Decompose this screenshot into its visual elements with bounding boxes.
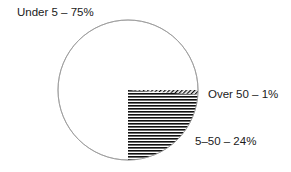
- label-over-50: Over 50 – 1%: [208, 89, 278, 101]
- slice-5-50: [128, 90, 198, 160]
- label-under-5: Under 5 – 75%: [17, 7, 94, 19]
- label-5-50: 5–50 – 24%: [195, 136, 256, 148]
